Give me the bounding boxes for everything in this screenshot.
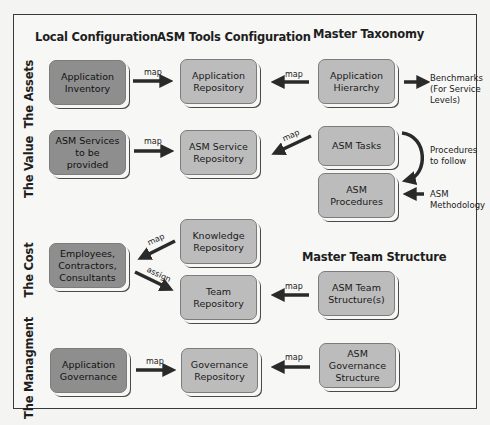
benchmarks-line-1: Benchmarks xyxy=(430,73,483,84)
procedures-line-1: Procedures xyxy=(430,145,477,156)
arrow-label-map-3: map xyxy=(144,137,162,146)
methodology-line-2: Methodology xyxy=(430,200,485,211)
procedures-note: Procedures to follow xyxy=(430,145,477,167)
arrow-label-map-8: map xyxy=(285,353,303,362)
methodology-note: ASM Methodology xyxy=(430,189,485,211)
benchmarks-note: Benchmarks (For Service Levels) xyxy=(430,73,483,106)
procedures-line-2: to follow xyxy=(430,156,477,167)
methodology-line-1: ASM xyxy=(430,189,485,200)
arrow-label-map-1: map xyxy=(144,68,162,77)
arrow-tasks-to-procedures xyxy=(402,133,422,180)
arrow-label-map-2: map xyxy=(285,70,303,79)
benchmarks-line-2: (For Service xyxy=(430,84,483,95)
benchmarks-line-3: Levels) xyxy=(430,95,483,106)
arrow-label-map-7: map xyxy=(146,357,164,366)
arrows-layer xyxy=(0,0,490,425)
arrow-label-map-6: map xyxy=(285,282,303,291)
